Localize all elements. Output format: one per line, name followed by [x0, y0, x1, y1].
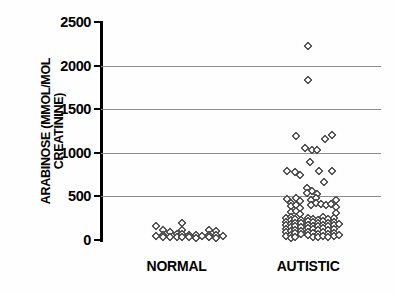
data-point — [218, 232, 226, 240]
plot-area: 05001000150020002500 — [101, 22, 381, 240]
y-tick-2000 — [94, 65, 101, 67]
y-tick-2500 — [94, 21, 101, 23]
y-tick-0 — [94, 239, 101, 241]
category-label-autistic: AUTISTIC — [277, 258, 340, 274]
y-tick-500 — [94, 195, 101, 197]
data-point — [305, 158, 313, 166]
y-tick-1000 — [94, 152, 101, 154]
data-point — [304, 76, 312, 84]
y-tick-label-2500: 2500 — [60, 14, 91, 30]
y-tick-label-2000: 2000 — [60, 58, 91, 74]
data-point — [328, 167, 336, 175]
chart-figure: ARABINOSE (MMOL/MOL CREATININE) 05001000… — [0, 0, 395, 293]
category-label-normal: NORMAL — [146, 258, 206, 274]
y-axis-title: ARABINOSE (MMOL/MOL CREATININE) — [40, 16, 66, 246]
y-tick-label-500: 500 — [68, 188, 91, 204]
y-tick-1500 — [94, 108, 101, 110]
gridline-500 — [101, 196, 381, 197]
data-point — [319, 178, 327, 186]
gridline-1000 — [101, 153, 381, 154]
data-point — [291, 132, 299, 140]
gridline-1500 — [101, 109, 381, 110]
y-tick-label-1000: 1000 — [60, 145, 91, 161]
gridline-2000 — [101, 66, 381, 67]
data-point — [304, 42, 312, 50]
data-point — [315, 167, 323, 175]
y-tick-label-0: 0 — [83, 232, 91, 248]
y-tick-label-1500: 1500 — [60, 101, 91, 117]
